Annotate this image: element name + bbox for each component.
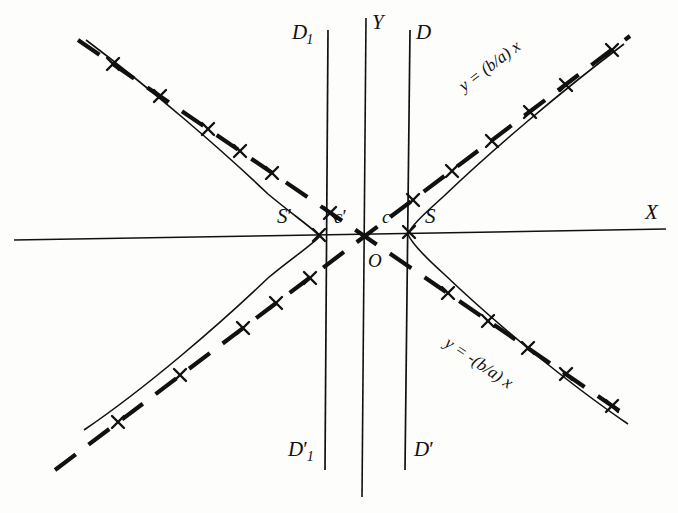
hyperbola-right-branch [408, 44, 628, 424]
directrix-d-top-label: D [416, 20, 431, 45]
y-axis-label: Y [372, 10, 384, 35]
hyperbola-figure: X Y O D1 D D′1 D′ S′ S c′ c y = (b/a) x … [0, 0, 678, 513]
origin-label: O [368, 250, 382, 272]
directrix-d-bottom-label: D′ [414, 437, 434, 462]
directrix-d1-top-letter: D [292, 20, 307, 44]
directrix-d1-line [325, 30, 328, 470]
foot-c-label: c [382, 206, 390, 228]
directrix-d-bottom-prime: ′ [429, 437, 434, 461]
foot-c-prime-mark: ′ [342, 206, 346, 227]
diagram-canvas [0, 0, 678, 513]
vertex-s-prime-mark: ′ [288, 204, 293, 228]
x-axis [14, 229, 666, 240]
x-axis-label: X [645, 200, 658, 225]
foot-c-prime-label: c′ [334, 206, 347, 228]
directrix-d-bottom-letter: D [414, 437, 429, 461]
directrix-d-line [405, 30, 410, 470]
vertex-s-label: S [425, 204, 436, 229]
directrix-d1-top-subscript: 1 [306, 31, 313, 47]
directrix-d1-bottom-subscript: 1 [307, 448, 314, 464]
vertex-s-prime-label: S′ [277, 204, 292, 229]
y-axis [362, 18, 366, 497]
asymptote-positive-slope [55, 36, 630, 470]
directrix-d1-top-label: D1 [292, 20, 313, 48]
vertex-s-prime-letter: S [277, 204, 288, 228]
directrix-d1-bottom-label: D′1 [288, 437, 314, 465]
directrix-d1-bottom-letter: D [288, 437, 303, 461]
